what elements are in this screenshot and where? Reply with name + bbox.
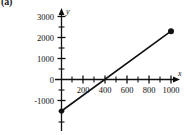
x-tick-label-800: 800 [143, 85, 156, 95]
figure-container: (a) y x [0, 0, 187, 135]
data-point-marker-start [59, 108, 64, 113]
line-chart: y x [0, 0, 187, 135]
x-tick-label-200: 200 [77, 85, 90, 95]
x-tick-label-1000: 1000 [163, 85, 180, 95]
y-tick-label-0: 0 [50, 75, 54, 85]
x-tick-labels: 200 400 600 800 1000 [77, 85, 180, 95]
y-tick-label-3000: 3000 [37, 12, 54, 22]
data-point-marker-end [168, 28, 174, 34]
y-tick-label-1000: 1000 [37, 54, 54, 64]
y-tick-labels: 3000 2000 1000 0 -1000 [34, 12, 54, 106]
x-tick-label-600: 600 [121, 85, 134, 95]
y-tick-label-minus1000: -1000 [34, 96, 54, 106]
x-axis-group: x [55, 69, 182, 82]
x-tick-label-400: 400 [99, 85, 112, 95]
y-tick-label-2000: 2000 [37, 33, 54, 43]
x-axis-label: x [177, 69, 182, 78]
data-line-segment [62, 31, 172, 111]
y-axis-label: y [65, 7, 70, 16]
y-axis-arrowhead [59, 8, 65, 15]
